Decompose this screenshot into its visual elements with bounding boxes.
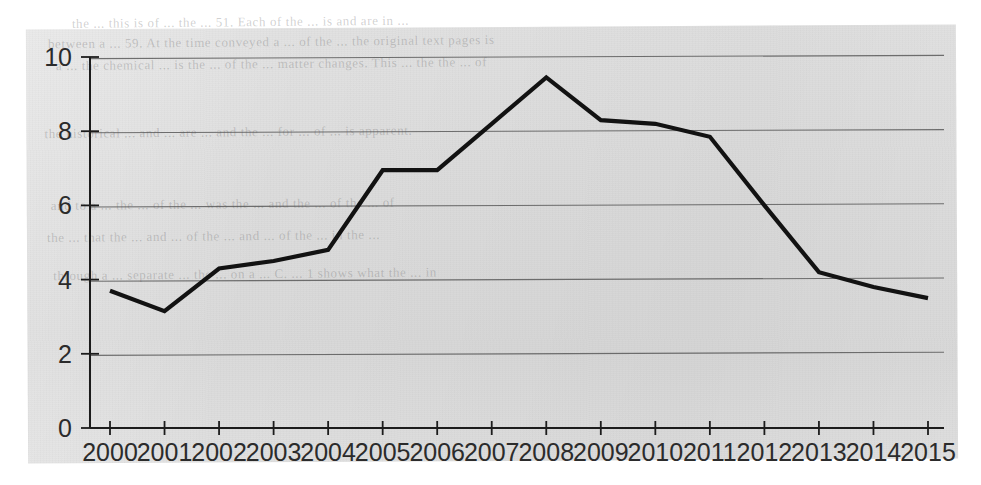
y-axis-tick-label: 2 <box>58 340 72 368</box>
y-axis-tick-label: 10 <box>44 43 72 71</box>
x-axis-tick-label: 2003 <box>246 438 302 466</box>
x-axis-tick-label: 2015 <box>900 438 956 466</box>
y-axis-label-group: 0246810 <box>44 43 72 442</box>
line-chart: 0246810 20002001200220032004200520062007… <box>0 0 981 485</box>
x-axis-tick-label: 2014 <box>846 438 902 466</box>
x-axis-tick-label: 2010 <box>628 438 684 466</box>
y-axis-tick-label: 6 <box>58 191 72 219</box>
gridline <box>90 352 944 355</box>
y-axis-tick-label: 8 <box>58 117 72 145</box>
x-axis-tick-label: 2008 <box>518 438 574 466</box>
gridline <box>90 278 944 281</box>
x-axis-tick-label: 2007 <box>464 438 520 466</box>
y-axis-tick-label: 0 <box>58 414 72 442</box>
x-axis-tick-label: 2004 <box>300 438 356 466</box>
gridline <box>90 204 944 207</box>
x-axis-tick-label: 2005 <box>355 438 411 466</box>
data-series-line <box>110 77 928 311</box>
x-axis-tick-label: 2002 <box>191 438 247 466</box>
x-axis-tick-label: 2009 <box>573 438 629 466</box>
x-axis-tick-label: 2000 <box>82 438 138 466</box>
gridline <box>90 55 944 58</box>
x-axis-tick-label: 2011 <box>683 438 737 466</box>
x-axis-tick-label: 2006 <box>409 438 465 466</box>
gridline <box>90 130 944 133</box>
x-axis-tick-label: 2013 <box>791 438 847 466</box>
x-axis-tick-label: 2001 <box>137 438 193 466</box>
scanned-page: the ... this is of ... the ... 51. Each … <box>0 0 981 485</box>
x-axis-tick-label: 2012 <box>737 438 793 466</box>
y-axis-tick-label: 4 <box>58 266 72 294</box>
x-axis-label-group: 2000200120022003200420052006200720082009… <box>82 438 956 466</box>
